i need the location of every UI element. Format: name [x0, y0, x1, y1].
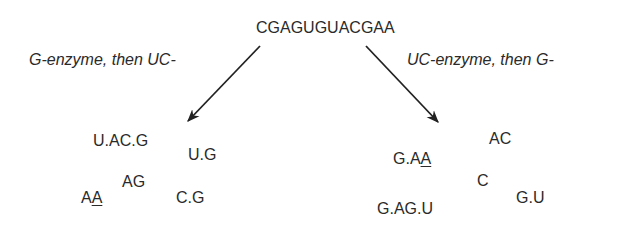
- fragment: C.G: [176, 190, 204, 206]
- fragment-plain: G.A: [393, 150, 421, 167]
- fragment: AA: [81, 190, 102, 206]
- left-arrow: [188, 46, 260, 121]
- fragment-underlined: A: [421, 150, 432, 167]
- fragment: G.AG.U: [377, 201, 433, 217]
- right-branch-label: UC-enzyme, then G-: [407, 52, 554, 68]
- fragment: C: [477, 173, 489, 189]
- rna-sequence: CGAGUGUACGAA: [256, 20, 395, 36]
- fragment: U.G: [188, 147, 216, 163]
- fragment: G.U: [516, 190, 544, 206]
- fragment-plain: A: [81, 189, 92, 206]
- fragment: AC: [489, 131, 511, 147]
- fragment: AG: [122, 174, 145, 190]
- fragment-underlined: A: [92, 189, 103, 206]
- left-branch-label: G-enzyme, then UC-: [29, 52, 176, 68]
- fragment: G.AA: [393, 151, 431, 167]
- fragment: U.AC.G: [93, 133, 148, 149]
